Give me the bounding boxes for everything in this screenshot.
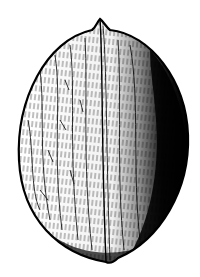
- walnut-illustration: [0, 0, 200, 277]
- walnut-body: [0, 0, 200, 277]
- illustration-canvas: [0, 0, 200, 277]
